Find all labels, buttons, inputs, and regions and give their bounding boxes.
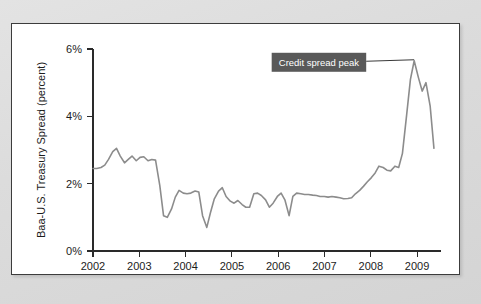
- annotation-credit-spread-peak[interactable]: Credit spread peak: [272, 53, 367, 72]
- y-axis-tick-labels: 6% 4% 2% 0%: [66, 43, 82, 257]
- annotation-label: Credit spread peak: [279, 57, 360, 68]
- x-tick-label-2006: 2006: [266, 260, 290, 272]
- line-chart: 6% 4% 2% 0% Baa-U.S. Treasury Spread (pe…: [12, 24, 461, 276]
- series-line-credit-spread: [93, 61, 434, 228]
- x-tick-label-2004: 2004: [173, 260, 197, 272]
- y-tick-label-4: 4%: [66, 110, 82, 122]
- x-tick-label-2005: 2005: [220, 260, 244, 272]
- x-axis-tick-labels: 2002 2003 2004 2005 2006 2007 2008 2009: [81, 260, 430, 272]
- x-tick-label-2007: 2007: [312, 260, 336, 272]
- x-axis-ticks: [93, 251, 417, 257]
- y-tick-label-0: 0%: [66, 245, 82, 257]
- x-tick-label-2008: 2008: [359, 260, 383, 272]
- figure-page: 6% 4% 2% 0% Baa-U.S. Treasury Spread (pe…: [0, 0, 481, 304]
- y-axis-ticks: [87, 49, 93, 251]
- annotation-leader-line: [366, 60, 414, 62]
- y-axis-title: Baa-U.S. Treasury Spread (percent): [35, 62, 47, 238]
- y-tick-label-2: 2%: [66, 178, 82, 190]
- x-tick-label-2002: 2002: [81, 260, 105, 272]
- chart-panel: 6% 4% 2% 0% Baa-U.S. Treasury Spread (pe…: [11, 23, 460, 275]
- x-tick-label-2009: 2009: [405, 260, 429, 272]
- y-tick-label-6: 6%: [66, 43, 82, 55]
- x-tick-label-2003: 2003: [127, 260, 151, 272]
